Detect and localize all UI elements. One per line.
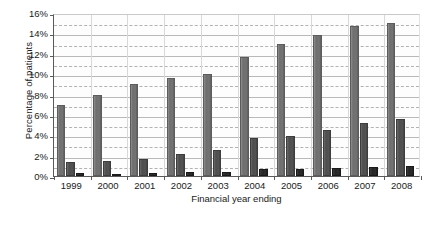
y-axis-tick-labels: 0%2%4%6%8%10%12%14%16%	[12, 0, 48, 227]
bar-series-2-2005	[286, 136, 295, 176]
bar-series-1-2001	[130, 84, 139, 176]
bar-series-3-2006	[332, 168, 341, 176]
x-tick-label-2004: 2004	[244, 180, 265, 191]
y-tick-label: 16%	[14, 9, 48, 18]
bar-series-1-2008	[387, 23, 396, 176]
x-tick-label-2006: 2006	[318, 180, 339, 191]
bar-series-2-2006	[323, 130, 332, 176]
bar-group	[54, 15, 91, 176]
bar-series-3-2001	[149, 173, 158, 176]
bar-series-2-2004	[250, 138, 259, 176]
bar-series-2-1999	[66, 162, 75, 176]
y-tick-label: 8%	[14, 91, 48, 100]
bar-series-2-2003	[213, 150, 222, 176]
bar-series-2-2002	[176, 154, 185, 176]
y-tick-label: 0%	[14, 172, 48, 181]
y-tick-label: 14%	[14, 29, 48, 38]
x-tick-label-2008: 2008	[391, 180, 412, 191]
x-tick-label-1999: 1999	[61, 180, 82, 191]
bar-series-1-2000	[93, 95, 102, 177]
bar-series-1-2002	[167, 78, 176, 176]
bar-series-3-2003	[222, 172, 231, 176]
bar-series-2-2007	[360, 123, 369, 176]
bar-series-2-2008	[396, 119, 405, 176]
bar-series-3-1999	[76, 173, 85, 176]
bar-group	[91, 15, 128, 176]
x-tick-label-2005: 2005	[281, 180, 302, 191]
x-tick-label-2000: 2000	[97, 180, 118, 191]
bar-series-3-2002	[186, 172, 195, 176]
bar-series-3-2004	[259, 169, 268, 176]
x-tick-mark	[421, 176, 422, 180]
y-tick-label: 2%	[14, 152, 48, 161]
x-axis-title: Financial year ending	[53, 193, 420, 204]
x-tick-label-2007: 2007	[354, 180, 375, 191]
bar-group	[238, 15, 275, 176]
bar-series-1-2003	[203, 74, 212, 176]
x-tick-label-2002: 2002	[171, 180, 192, 191]
bar-series-2-2000	[103, 161, 112, 176]
bar-series-1-2006	[313, 35, 322, 176]
bar-series-3-2000	[112, 174, 121, 176]
bar-series-2-2001	[139, 159, 148, 176]
bar-chart: Percentage of patients 0%2%4%6%8%10%12%1…	[0, 0, 427, 227]
bar-group	[164, 15, 201, 176]
bar-group	[348, 15, 385, 176]
bar-group	[201, 15, 238, 176]
bar-series-3-2008	[406, 166, 415, 176]
bar-group	[274, 15, 311, 176]
y-tick-label: 12%	[14, 50, 48, 59]
bar-series-3-2007	[369, 167, 378, 176]
bar-series-1-1999	[57, 105, 66, 176]
bar-series-1-2005	[277, 44, 286, 176]
y-tick-label: 4%	[14, 131, 48, 140]
plot-area	[53, 14, 420, 177]
bar-series-1-2007	[350, 26, 359, 176]
y-tick-label: 10%	[14, 70, 48, 79]
x-tick-label-2001: 2001	[134, 180, 155, 191]
bar-series-1-2004	[240, 57, 249, 176]
bar-group	[384, 15, 421, 176]
y-tick-label: 6%	[14, 111, 48, 120]
bar-group	[311, 15, 348, 176]
x-tick-label-2003: 2003	[208, 180, 229, 191]
bar-group	[127, 15, 164, 176]
bar-series-3-2005	[296, 169, 305, 176]
x-axis-tick-labels: 1999200020012002200320042005200620072008	[53, 180, 420, 194]
